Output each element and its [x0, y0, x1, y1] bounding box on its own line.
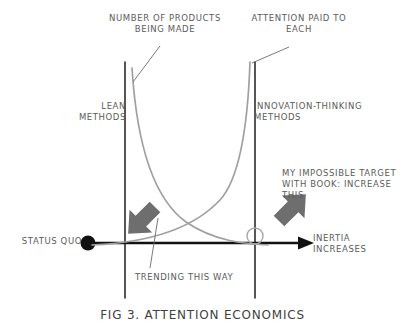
products-leader-line [133, 46, 160, 82]
label-impossible-target: My impossible target with book: Increase… [282, 168, 404, 201]
attention-leader-line [252, 47, 289, 63]
label-lean-methods: Lean Methods [78, 101, 126, 123]
axis-arrowhead-icon [298, 237, 314, 250]
figure-caption: Fig 3. Attention Economics [0, 308, 405, 322]
status-quo-dot [81, 236, 96, 251]
label-number-of-products: Number of products being made [108, 13, 222, 35]
label-trending-this-way: Trending this way [135, 272, 245, 283]
label-inertia-increases: Inertia Increases [313, 233, 397, 255]
figure-canvas [0, 0, 405, 333]
label-innovation-thinking-methods: Innovation-thinking Methods [254, 101, 374, 123]
label-status-quo: Status Quo [14, 236, 82, 247]
attention-economics-figure: Number of products being made Attention … [0, 0, 405, 333]
label-attention-paid-to-each: Attention paid to each [243, 13, 355, 35]
attention-rise-curve [92, 62, 250, 245]
